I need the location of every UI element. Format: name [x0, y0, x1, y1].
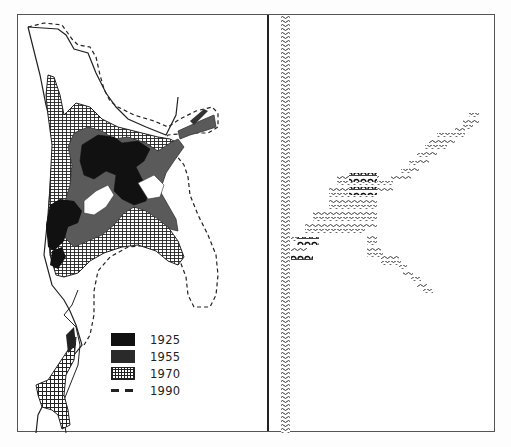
figure-frame: 1925 1955 1970 1990: [17, 14, 495, 432]
swatch-dark-gray-icon: [111, 350, 135, 363]
legend-label: 1955: [150, 350, 180, 364]
legend-item-1925: 1925: [111, 331, 180, 348]
legend-item-1970: 1970: [111, 365, 180, 382]
legend-label: 1990: [150, 384, 180, 398]
legend-item-1955: 1955: [111, 348, 180, 365]
legend-label: 1970: [150, 367, 180, 381]
schematic-graphic: [269, 15, 494, 433]
map-legend: 1925 1955 1970 1990: [111, 331, 180, 399]
coastal-schematic: [269, 15, 494, 431]
wave-strip: [281, 15, 290, 433]
legend-label: 1925: [150, 333, 180, 347]
swatch-dashed-line-icon: [111, 389, 135, 392]
legend-item-1990: 1990: [111, 382, 180, 399]
urban-growth-map: 1925 1955 1970 1990: [18, 15, 267, 431]
swatch-grid-icon: [111, 367, 135, 380]
swatch-solid-black-icon: [111, 333, 135, 346]
